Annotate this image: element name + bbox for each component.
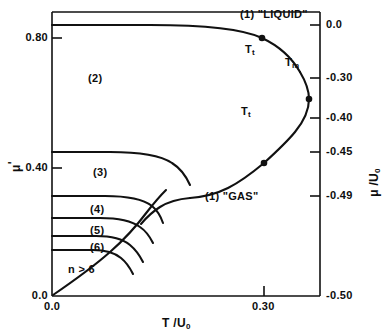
right-tick-label-000: 0.0 xyxy=(326,18,342,30)
x-axis-label: T /U0 xyxy=(162,316,191,331)
left-tick-label-000: 0.0 xyxy=(8,289,48,301)
curve-high-n-envelope xyxy=(53,190,166,295)
right-tick-label-049: -0.49 xyxy=(326,189,353,201)
right-tick-label-030: -0.30 xyxy=(326,71,353,83)
y-axis-left-label: μ' xyxy=(6,152,23,182)
t-triple-upper-symbol: T xyxy=(245,43,252,55)
right-tick-label-045: -0.45 xyxy=(326,145,353,157)
annotation-liquid: (1) "LIQUID" xyxy=(240,8,308,20)
label-t-triple-lower: Tt xyxy=(241,105,251,119)
annotation-region-6: (6) xyxy=(90,241,104,253)
annotation-region-5: (5) xyxy=(90,224,104,236)
marker-t-melt xyxy=(306,96,313,103)
y-axis-left-symbol: μ xyxy=(9,164,23,172)
marker-t-triple-lower xyxy=(261,160,268,167)
annotation-region-4: (4) xyxy=(90,203,104,215)
annotation-region-2: (2) xyxy=(88,72,102,84)
right-tick-label-040: -0.40 xyxy=(326,111,353,123)
label-t-triple-upper: Tt xyxy=(245,43,255,57)
t-triple-lower-subscript: t xyxy=(248,110,251,119)
annotation-high-n: n > 6 xyxy=(68,263,95,275)
y-axis-left-prime: ' xyxy=(6,161,20,164)
right-axis-ticks xyxy=(310,25,320,196)
left-tick-label-080: 0.80 xyxy=(8,31,48,43)
t-triple-lower-symbol: T xyxy=(241,105,248,117)
annotation-region-3: (3) xyxy=(93,166,107,178)
phase-diagram-plot xyxy=(0,0,392,331)
y-axis-right-subscript: 0 xyxy=(373,168,382,173)
phase-boundary-curves xyxy=(52,25,309,295)
x-axis-symbol: T /U xyxy=(162,316,186,330)
marker-t-triple-upper xyxy=(259,35,266,42)
phase-diagram-figure: 0.80 0.40 0.0 μ' 0.0 -0.30 -0.40 -0.45 -… xyxy=(0,0,392,331)
label-t-melt: Tm xyxy=(285,56,299,70)
right-tick-label-050: -0.50 xyxy=(326,289,353,301)
left-axis-ticks xyxy=(52,38,62,168)
curve-n1-nose xyxy=(264,72,309,163)
annotation-gas: (1) "GAS" xyxy=(205,190,258,202)
y-axis-right-symbol: μ /U xyxy=(367,173,381,197)
bottom-tick-label-000: 0.0 xyxy=(44,300,60,312)
t-melt-subscript: m xyxy=(292,61,299,70)
t-melt-symbol: T xyxy=(285,56,292,68)
curve-n3-boundary xyxy=(52,152,190,185)
x-axis-subscript: 0 xyxy=(186,322,191,331)
y-axis-right-label: μ /U0 xyxy=(367,160,382,206)
t-triple-upper-subscript: t xyxy=(252,48,255,57)
curve-n1-upper-branch xyxy=(52,25,300,72)
axis-frame xyxy=(52,12,320,296)
bottom-tick-label-030: 0.30 xyxy=(252,300,275,312)
